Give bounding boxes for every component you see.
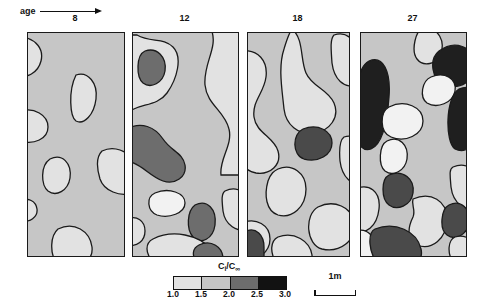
- legend-tick-labels: 1.0 1.5 2.0 2.5 3.0: [163, 290, 295, 302]
- legend-colorbar: [173, 276, 287, 290]
- legend-band-4: [259, 277, 286, 289]
- legend-title-sub-inf: ∞: [235, 265, 240, 272]
- scale-bar-label: 1m: [314, 272, 356, 281]
- legend-title: Ci/C∞: [173, 262, 285, 271]
- legend-tick-5: 3.0: [279, 290, 291, 299]
- legend-tick-2: 1.5: [195, 290, 207, 299]
- contour-panel-27: [360, 32, 467, 257]
- panel-title-12: 12: [132, 14, 237, 23]
- legend-title-text: C: [218, 261, 225, 271]
- legend-band-3: [231, 277, 259, 289]
- legend-title-mid: /C: [226, 261, 235, 271]
- contour-panel-8: [27, 32, 125, 257]
- legend-band-1: [174, 277, 202, 289]
- scale-bar: [314, 288, 356, 296]
- legend-tick-4: 2.5: [251, 290, 263, 299]
- panel-title-18: 18: [247, 14, 348, 23]
- panel-title-8: 8: [27, 14, 123, 23]
- panel-title-27: 27: [360, 14, 465, 23]
- legend-tick-3: 2.0: [223, 290, 235, 299]
- contour-panel-12: [132, 32, 239, 257]
- legend-band-2: [202, 277, 230, 289]
- contour-map-figure: age 8 12 18 27: [0, 0, 482, 308]
- contour-panel-18: [247, 32, 350, 257]
- legend-tick-1: 1.0: [167, 290, 179, 299]
